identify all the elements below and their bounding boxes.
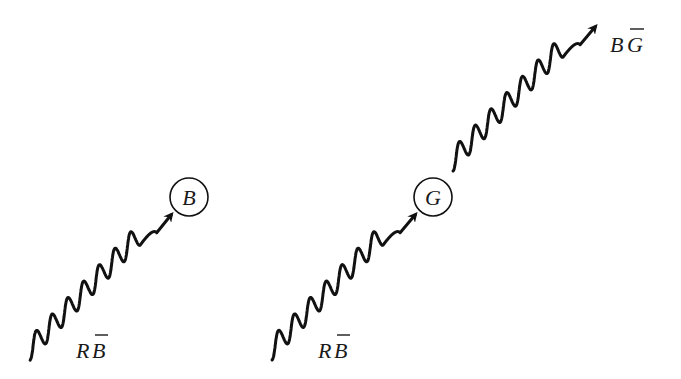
label-main: B <box>610 32 623 57</box>
vertex-g: G <box>414 178 452 216</box>
vertex-label: B <box>182 185 195 210</box>
vertex-label: G <box>425 185 441 210</box>
label-bar: B <box>334 338 347 363</box>
label-main: R <box>75 338 90 363</box>
gluon-line-right-outgoing <box>453 27 595 171</box>
gluon-label-left-incoming: R B <box>75 335 108 363</box>
vertex-b: B <box>170 178 208 216</box>
gluon-label-right-outgoing: B G <box>610 29 644 57</box>
gluon-diagram: B R B G R B B G <box>0 0 681 379</box>
right-panel: G R B B G <box>272 27 644 363</box>
label-bar: G <box>627 32 643 57</box>
left-panel: B R B <box>30 178 208 363</box>
label-main: R <box>317 338 332 363</box>
label-bar: B <box>92 338 105 363</box>
gluon-label-right-incoming: R B <box>317 335 350 363</box>
